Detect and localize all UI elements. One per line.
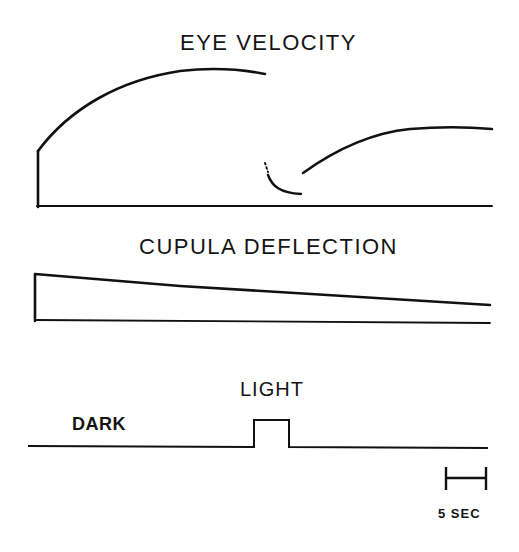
cupula-deflection-baseline bbox=[35, 320, 490, 323]
eye-velocity-recovery-curve bbox=[303, 127, 492, 173]
cupula-deflection-panel bbox=[35, 274, 490, 323]
eye-velocity-dip-dotted bbox=[265, 163, 268, 172]
eye-velocity-title: EYE VELOCITY bbox=[0, 30, 519, 56]
scale-bar-label: 5 SEC bbox=[438, 506, 481, 521]
time-scale-bar bbox=[446, 467, 486, 490]
light-label: LIGHT bbox=[240, 378, 304, 401]
traces-canvas bbox=[0, 0, 519, 552]
dark-label: DARK bbox=[72, 414, 126, 435]
eye-velocity-panel bbox=[37, 69, 492, 207]
eye-velocity-dip-curve bbox=[268, 175, 301, 194]
eye-velocity-primary-curve bbox=[38, 69, 265, 151]
cupula-deflection-trace bbox=[35, 274, 490, 321]
cupula-deflection-title: CUPULA DEFLECTION bbox=[0, 234, 519, 260]
